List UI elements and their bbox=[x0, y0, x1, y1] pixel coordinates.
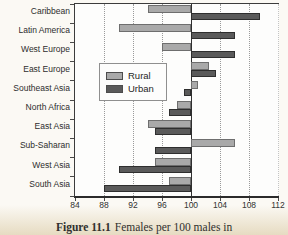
bar-rural-caribbean bbox=[148, 5, 192, 13]
bar-rural-north-africa bbox=[177, 101, 192, 109]
y-axis-tick bbox=[70, 196, 74, 197]
y-label-caribbean: Caribbean bbox=[31, 6, 70, 17]
y-axis-tick bbox=[70, 42, 74, 43]
gridline-108 bbox=[249, 4, 250, 196]
bar-urban-west-asia bbox=[119, 166, 192, 173]
bar-rural-west-europe bbox=[162, 43, 191, 51]
y-axis-tick bbox=[70, 100, 74, 101]
bar-urban-latin-america bbox=[191, 32, 235, 39]
rural-swatch-icon bbox=[106, 72, 123, 80]
y-label-east-asia: East Asia bbox=[35, 121, 70, 132]
y-label-east-europe: East Europe bbox=[23, 64, 70, 75]
figure-scan: Rural Urban Figure 11.1Females per 100 m… bbox=[0, 0, 288, 235]
legend-entry-urban: Urban bbox=[106, 82, 164, 95]
y-label-southeast-asia: Southeast Asia bbox=[13, 83, 70, 94]
y-axis-tick bbox=[70, 138, 74, 139]
bar-urban-caribbean bbox=[191, 13, 260, 20]
x-tick-label-96: 96 bbox=[151, 200, 173, 210]
y-label-west-asia: West Asia bbox=[32, 160, 70, 171]
y-axis-tick bbox=[70, 61, 74, 62]
bar-rural-west-asia bbox=[155, 158, 191, 166]
y-axis-tick bbox=[70, 80, 74, 81]
x-tick-label-104: 104 bbox=[209, 200, 231, 210]
figure-caption: Figure 11.1Females per 100 males in bbox=[56, 221, 232, 233]
y-label-sub-saharan: Sub-Saharan bbox=[20, 140, 70, 151]
y-label-south-asia: South Asia bbox=[29, 179, 70, 190]
y-axis-tick bbox=[70, 176, 74, 177]
urban-swatch-icon bbox=[106, 85, 123, 93]
x-tick-label-108: 108 bbox=[238, 200, 260, 210]
bar-urban-east-europe bbox=[191, 70, 216, 77]
x-tick-label-92: 92 bbox=[122, 200, 144, 210]
bar-urban-north-africa bbox=[169, 109, 191, 116]
bar-rural-south-asia bbox=[169, 177, 191, 185]
x-tick-label-100: 100 bbox=[180, 200, 202, 210]
bar-urban-east-asia bbox=[155, 128, 191, 135]
bar-urban-sub-saharan bbox=[155, 147, 191, 154]
bar-rural-east-asia bbox=[148, 120, 192, 128]
legend-entry-rural: Rural bbox=[106, 69, 164, 82]
bar-rural-southeast-asia bbox=[191, 81, 198, 89]
x-tick-label-88: 88 bbox=[93, 200, 115, 210]
gridline-112 bbox=[278, 4, 279, 196]
y-axis-tick bbox=[70, 157, 74, 158]
y-axis-tick bbox=[70, 23, 74, 24]
y-label-latin-america: Latin America bbox=[19, 25, 71, 36]
y-label-west-europe: West Europe bbox=[21, 44, 70, 55]
bar-urban-southeast-asia bbox=[184, 89, 191, 96]
y-label-north-africa: North Africa bbox=[26, 102, 70, 113]
legend: Rural Urban bbox=[99, 63, 167, 101]
figure-caption-number: Figure 11.1 bbox=[56, 221, 111, 233]
legend-label-rural: Rural bbox=[128, 70, 151, 81]
bar-rural-east-europe bbox=[191, 62, 209, 70]
figure-caption-text: Females per 100 males in bbox=[115, 221, 233, 233]
bar-rural-sub-saharan bbox=[191, 139, 235, 147]
bar-rural-latin-america bbox=[119, 24, 192, 32]
y-axis-tick bbox=[70, 4, 74, 5]
legend-label-urban: Urban bbox=[128, 83, 154, 94]
bar-urban-west-europe bbox=[191, 51, 235, 58]
bar-urban-south-asia bbox=[104, 185, 191, 192]
x-tick-label-112: 112 bbox=[267, 200, 288, 210]
y-axis-tick bbox=[70, 119, 74, 120]
x-tick-label-84: 84 bbox=[64, 200, 86, 210]
